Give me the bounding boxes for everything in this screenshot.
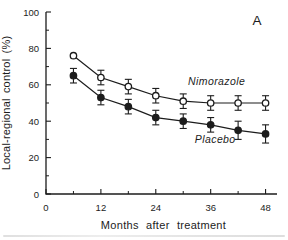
x-axis-title: Months after treatment <box>101 219 226 231</box>
data-point-filled-circle <box>153 114 159 120</box>
scan-artifact-line <box>3 235 285 237</box>
data-point-filled-circle <box>235 127 241 133</box>
data-point-filled-circle <box>98 94 104 100</box>
data-point-filled-circle <box>262 131 268 137</box>
data-point-open-circle <box>180 98 186 104</box>
y-tick-label: 60 <box>28 79 39 90</box>
data-point-open-circle <box>207 100 213 106</box>
y-tick-label: 80 <box>28 43 39 54</box>
data-point-filled-circle <box>125 103 131 109</box>
data-point-filled-circle <box>180 118 186 124</box>
data-point-open-circle <box>70 52 76 58</box>
figure-panel: 020406080100012243648Months after treatm… <box>0 0 288 240</box>
data-point-filled-circle <box>70 73 76 79</box>
y-axis-title: Local-regional control (%) <box>0 36 12 171</box>
panel-label: A <box>252 13 261 28</box>
x-tick-label: 0 <box>43 202 48 213</box>
data-point-open-circle <box>153 93 159 99</box>
data-point-filled-circle <box>207 122 213 128</box>
data-point-open-circle <box>98 74 104 80</box>
y-tick-label: 20 <box>28 152 39 163</box>
x-tick-label: 36 <box>205 202 216 213</box>
y-tick-label: 0 <box>34 189 39 200</box>
line-chart: 020406080100012243648Months after treatm… <box>0 0 288 240</box>
series-label-placebo: Placebo <box>195 133 236 145</box>
series-label-nimorazole: Nimorazole <box>188 75 245 87</box>
data-point-open-circle <box>262 100 268 106</box>
y-tick-label: 40 <box>28 116 39 127</box>
data-point-open-circle <box>125 83 131 89</box>
data-point-open-circle <box>235 100 241 106</box>
x-tick-label: 12 <box>96 202 107 213</box>
x-tick-label: 48 <box>260 202 271 213</box>
x-tick-label: 24 <box>150 202 161 213</box>
y-tick-label: 100 <box>23 7 39 18</box>
